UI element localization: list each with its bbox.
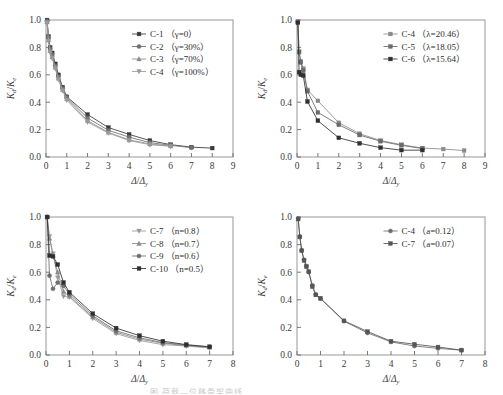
svg-text:0.0: 0.0 xyxy=(280,350,292,360)
svg-text:Kd/Ke: Kd/Ke xyxy=(6,275,17,298)
svg-text:C-7 （n=0.8）: C-7 （n=0.8） xyxy=(150,226,205,236)
svg-text:5: 5 xyxy=(161,359,166,369)
svg-text:2: 2 xyxy=(342,359,347,369)
svg-text:8: 8 xyxy=(231,359,236,369)
svg-text:C-2 （γ=30%）: C-2 （γ=30%） xyxy=(150,42,209,52)
svg-text:1: 1 xyxy=(64,161,69,171)
svg-text:0.8: 0.8 xyxy=(280,43,292,53)
svg-text:0.0: 0.0 xyxy=(280,152,292,162)
svg-text:1: 1 xyxy=(318,359,323,369)
svg-text:3: 3 xyxy=(357,161,362,171)
svg-text:0.0: 0.0 xyxy=(29,350,41,360)
svg-text:C-9 （n=0.6）: C-9 （n=0.6） xyxy=(150,251,205,261)
svg-text:0.6: 0.6 xyxy=(29,268,41,278)
svg-text:0: 0 xyxy=(295,161,300,171)
svg-text:0.2: 0.2 xyxy=(280,323,292,333)
svg-text:C-10 （n=0.5）: C-10 （n=0.5） xyxy=(150,264,209,274)
svg-text:4: 4 xyxy=(389,359,394,369)
svg-text:0: 0 xyxy=(44,359,49,369)
svg-text:1: 1 xyxy=(67,359,72,369)
svg-text:C-3 （γ=70%）: C-3 （γ=70%） xyxy=(150,54,209,64)
svg-text:C-5 （λ=18.05）: C-5 （λ=18.05） xyxy=(401,42,464,52)
svg-text:C-4 （γ=100%）: C-4 （γ=100%） xyxy=(150,67,214,77)
svg-text:7: 7 xyxy=(189,161,194,171)
svg-text:2: 2 xyxy=(336,161,341,171)
svg-text:C-7 （a=0.07）: C-7 （a=0.07） xyxy=(401,239,460,249)
svg-text:Δ/Δy: Δ/Δy xyxy=(382,374,400,385)
svg-text:0.6: 0.6 xyxy=(280,70,292,80)
svg-text:1.0: 1.0 xyxy=(280,15,292,25)
svg-text:6: 6 xyxy=(436,359,441,369)
svg-text:2: 2 xyxy=(85,161,90,171)
svg-text:1.0: 1.0 xyxy=(29,15,41,25)
chart-panel-4: 0123456780.00.20.40.60.81.0Kd/KeΔ/ΔyC-4 … xyxy=(251,197,503,395)
svg-text:6: 6 xyxy=(168,161,173,171)
svg-text:9: 9 xyxy=(231,161,236,171)
svg-text:0: 0 xyxy=(295,359,300,369)
svg-text:3: 3 xyxy=(365,359,370,369)
svg-text:C-8 （n=0.7）: C-8 （n=0.7） xyxy=(150,239,205,249)
svg-text:5: 5 xyxy=(412,359,417,369)
svg-text:0.6: 0.6 xyxy=(280,268,292,278)
svg-text:6: 6 xyxy=(420,161,425,171)
chart-panel-3: 0123456780.00.20.40.60.81.0Kd/KeΔ/ΔyC-7 … xyxy=(0,197,251,395)
svg-text:8: 8 xyxy=(483,359,488,369)
svg-text:Kd/Ke: Kd/Ke xyxy=(6,78,17,101)
svg-text:9: 9 xyxy=(483,161,488,171)
svg-text:5: 5 xyxy=(148,161,153,171)
svg-text:0.4: 0.4 xyxy=(29,98,41,108)
svg-text:0.2: 0.2 xyxy=(280,125,292,135)
svg-text:Kd/Ke: Kd/Ke xyxy=(257,78,268,101)
svg-text:8: 8 xyxy=(210,161,215,171)
svg-text:Kd/Ke: Kd/Ke xyxy=(257,275,268,298)
svg-text:4: 4 xyxy=(127,161,132,171)
svg-text:0.6: 0.6 xyxy=(29,70,41,80)
svg-text:0.4: 0.4 xyxy=(280,98,292,108)
svg-text:8: 8 xyxy=(462,161,467,171)
svg-text:1.0: 1.0 xyxy=(29,212,41,222)
svg-text:7: 7 xyxy=(459,359,464,369)
svg-text:C-4 （a=0.12）: C-4 （a=0.12） xyxy=(401,226,460,236)
chart-panel-1: 01234567890.00.20.40.60.81.0Kd/KeΔ/ΔyC-1… xyxy=(0,0,251,197)
svg-text:Δ/Δy: Δ/Δy xyxy=(130,374,148,385)
svg-text:0.8: 0.8 xyxy=(29,240,41,250)
svg-text:1.0: 1.0 xyxy=(280,212,292,222)
svg-text:Δ/Δy: Δ/Δy xyxy=(130,176,148,187)
svg-text:2: 2 xyxy=(90,359,95,369)
svg-text:0.8: 0.8 xyxy=(280,240,292,250)
svg-text:3: 3 xyxy=(106,161,111,171)
svg-text:0.4: 0.4 xyxy=(280,295,292,305)
svg-text:4: 4 xyxy=(378,161,383,171)
figure-grid: 01234567890.00.20.40.60.81.0Kd/KeΔ/ΔyC-1… xyxy=(0,0,503,395)
svg-text:Δ/Δy: Δ/Δy xyxy=(382,176,400,187)
svg-text:C-6 （λ=15.64）: C-6 （λ=15.64） xyxy=(401,54,464,64)
svg-text:0.0: 0.0 xyxy=(29,152,41,162)
svg-text:1: 1 xyxy=(316,161,321,171)
svg-text:7: 7 xyxy=(207,359,212,369)
svg-text:7: 7 xyxy=(441,161,446,171)
svg-text:3: 3 xyxy=(114,359,119,369)
figure-caption: 图 荷载—位移骨架曲线 xyxy=(150,386,380,394)
svg-text:0.4: 0.4 xyxy=(29,295,41,305)
svg-text:C-1 （γ=0）: C-1 （γ=0） xyxy=(150,29,197,39)
chart-panel-2: 01234567890.00.20.40.60.81.0Kd/KeΔ/ΔyC-4… xyxy=(251,0,503,197)
svg-text:0.2: 0.2 xyxy=(29,323,41,333)
svg-text:C-4 （λ=20.46）: C-4 （λ=20.46） xyxy=(401,29,464,39)
svg-text:4: 4 xyxy=(137,359,142,369)
svg-text:0.2: 0.2 xyxy=(29,125,41,135)
svg-text:5: 5 xyxy=(399,161,404,171)
svg-text:0.8: 0.8 xyxy=(29,43,41,53)
svg-text:6: 6 xyxy=(184,359,189,369)
svg-text:0: 0 xyxy=(44,161,49,171)
